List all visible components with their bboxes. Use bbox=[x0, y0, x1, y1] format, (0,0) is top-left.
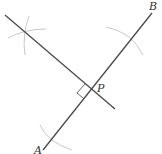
arc-near-a bbox=[40, 125, 72, 150]
label-b: B bbox=[148, 0, 157, 13]
label-a: A bbox=[33, 144, 42, 154]
right-angle-marker bbox=[77, 84, 85, 98]
label-p: P bbox=[96, 82, 105, 95]
perpendicular-construction-diagram: B A P bbox=[0, 0, 162, 154]
